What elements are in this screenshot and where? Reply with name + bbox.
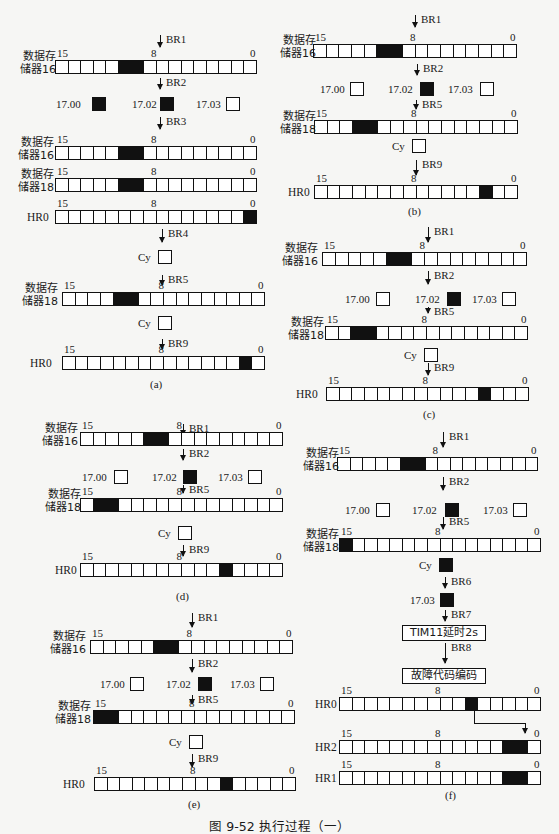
e-dm16-bit0-label: 0 [286,628,292,639]
c-17-00-box [376,292,390,306]
a-hr0-bit8-label: 8 [158,344,164,355]
b-17-03-box [480,82,494,96]
bit-cell-12 [353,186,366,198]
bit-cell-9 [131,211,144,223]
e-cy-label: Cy [169,735,182,749]
a-dm16-2-bit0-label: 0 [250,134,256,145]
d-cy-label: Cy [158,526,171,540]
tim11-delay-box: TIM11延时2s [402,625,486,641]
bit-cell-11 [114,293,127,305]
bit-cell-7 [441,772,454,784]
bit-cell-3 [488,458,501,470]
d-dm16-bit0-label: 0 [276,420,282,431]
b-hr0-bit0-label: 0 [511,173,517,184]
b-dm16-bit0-label: 0 [510,32,516,43]
bit-cell-0 [505,186,517,198]
f-hr1-bit0-label: 0 [534,759,540,770]
bit-cell-12 [378,741,391,753]
a-17-00-label: 17.00 [56,97,81,111]
bit-cell-3 [207,211,220,223]
e-dm18 [93,710,295,724]
a-cy-2-box [158,316,172,330]
bit-cell-15 [56,211,69,223]
c-br1-label: BR1 [434,226,454,237]
bit-cell-15 [340,698,353,710]
f-dm18-bit0-label: 0 [534,526,540,537]
a-br3-label: BR3 [166,116,186,127]
f-dm18 [339,538,541,552]
f-br2-label: BR2 [449,476,469,487]
e-br2-arrow [192,659,193,672]
bit-cell-3 [243,641,256,653]
b-hr0-label: HR0 [288,186,310,199]
bit-cell-5 [182,211,195,223]
f-br7-label: BR7 [451,609,471,620]
b-dm18-bit8-label: 8 [411,108,417,119]
bit-cell-6 [440,327,453,339]
bit-cell-1 [258,433,271,445]
bit-cell-7 [157,211,170,223]
bit-cell-13 [81,61,94,73]
bit-cell-3 [207,61,220,73]
bit-cell-12 [94,147,107,159]
f-hr1-bit8-label: 8 [435,759,441,770]
f-br6-label: BR6 [451,576,471,587]
bit-cell-14 [336,253,349,265]
bit-cell-15 [315,121,328,133]
e-cy-box [189,735,203,749]
bit-cell-9 [391,186,404,198]
bit-cell-11 [106,147,119,159]
bit-cell-15 [94,711,107,723]
e-17-03-label: 17.03 [230,677,255,691]
bit-cell-9 [415,698,428,710]
a-dm18-label: 数据存 储器18 [22,282,58,308]
bit-cell-10 [403,772,416,784]
bit-cell-4 [476,458,489,470]
e-dm16 [90,640,293,654]
bit-cell-14 [340,388,353,400]
bit-cell-8 [428,539,441,551]
bit-cell-9 [415,539,428,551]
c-hr0-bit15-label: 15 [328,375,339,386]
bit-cell-5 [452,327,465,339]
bit-cell-11 [378,388,391,400]
bit-cell-14 [69,147,82,159]
bit-cell-14 [69,179,82,191]
bit-cell-8 [151,357,164,369]
bit-cell-7 [157,147,170,159]
bit-cell-7 [441,539,454,551]
a-17-00-box [92,97,106,111]
b-dm18-bit15-label: 15 [316,108,327,119]
bit-cell-2 [245,499,258,511]
f-dm16-bit15-label: 15 [339,445,350,456]
bit-cell-11 [106,211,119,223]
bit-cell-7 [164,293,177,305]
bit-cell-1 [516,741,529,753]
bit-cell-10 [144,564,157,576]
bit-cell-4 [455,186,468,198]
c-hr0-bit8-label: 8 [422,375,428,386]
f-dm16-label: 数据存 储器16 [303,447,339,473]
bit-cell-3 [207,147,220,159]
e-hr0-bit15-label: 15 [96,765,107,776]
f-dm18-bit8-label: 8 [435,526,441,537]
a-dm16-2 [55,146,257,160]
bit-cell-13 [351,327,364,339]
d-br5-arrow [183,485,184,493]
bit-cell-12 [94,179,107,191]
bit-cell-10 [119,211,132,223]
bit-cell-1 [516,539,529,551]
e-17-00-box [130,677,144,691]
bit-cell-8 [169,499,182,511]
bit-cell-2 [501,458,514,470]
bit-cell-10 [126,293,139,305]
d-hr0 [80,563,283,577]
bit-cell-4 [232,711,245,723]
bit-cell-9 [169,711,182,723]
bit-cell-15 [323,253,336,265]
bit-cell-12 [119,499,132,511]
bit-cell-13 [88,357,101,369]
bit-cell-4 [220,499,233,511]
bit-cell-1 [516,698,529,710]
bit-cell-3 [478,327,491,339]
